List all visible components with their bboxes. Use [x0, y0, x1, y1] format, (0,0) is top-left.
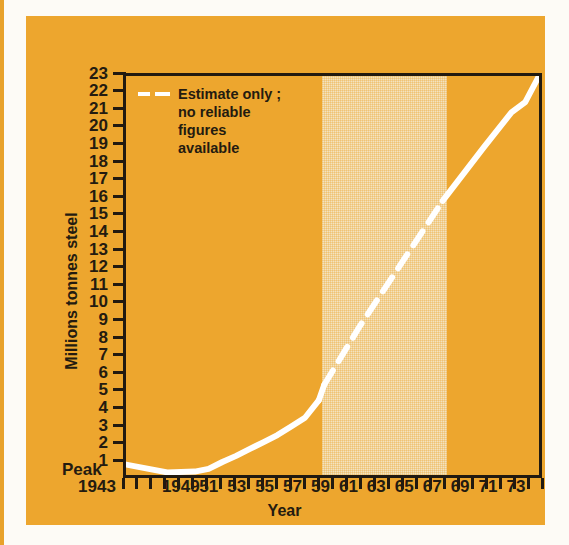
y-axis-title: Millions tonnes steel	[63, 201, 81, 381]
x-label-1943: 1943	[78, 477, 116, 497]
y-label-18: 18	[89, 153, 108, 170]
x-axis-labels: 19431949515355575961636567697173	[0, 477, 569, 503]
x-axis-title: Year	[0, 502, 569, 520]
y-label-2: 2	[99, 434, 108, 451]
y-label-6: 6	[99, 364, 108, 381]
series-segment-0-2	[324, 201, 442, 385]
series-segment-0-0	[126, 400, 319, 472]
chart-legend: Estimate only ; no reliable figures avai…	[138, 85, 281, 157]
legend-label: Estimate only ; no reliable figures avai…	[178, 85, 281, 157]
y-label-8: 8	[99, 329, 108, 346]
y-label-12: 12	[89, 258, 108, 275]
x-label-57: 57	[283, 477, 302, 497]
x-label-55: 55	[255, 477, 274, 497]
x-label-63: 63	[367, 477, 386, 497]
x-label-53: 53	[227, 477, 246, 497]
y-label-4: 4	[99, 399, 108, 416]
x-label-61: 61	[339, 477, 358, 497]
y-label-23: 23	[89, 65, 108, 82]
x-label-51: 51	[199, 477, 218, 497]
y-label-14: 14	[89, 223, 108, 240]
chart-orange-panel: 2322212019181716151413121110987654321 Pe…	[26, 16, 545, 525]
series-segment-0-3	[443, 76, 539, 201]
x-label-69: 69	[451, 477, 470, 497]
y-label-15: 15	[89, 205, 108, 222]
y-label-21: 21	[89, 100, 108, 117]
y-label-11: 11	[90, 276, 108, 293]
y-label-7: 7	[99, 346, 108, 363]
y-label-9: 9	[99, 311, 108, 328]
y-label-19: 19	[89, 135, 108, 152]
y-label-3: 3	[99, 417, 108, 434]
y-label-10: 10	[89, 293, 108, 310]
dashed-line-swatch-icon	[138, 85, 172, 102]
x-label-67: 67	[423, 477, 442, 497]
x-label-71: 71	[479, 477, 498, 497]
x-label-65: 65	[395, 477, 414, 497]
y-label-5: 5	[99, 381, 108, 398]
y-label-17: 17	[89, 170, 108, 187]
y-label-20: 20	[89, 117, 108, 134]
page-left-edge-stripe	[0, 0, 4, 545]
y-label-13: 13	[89, 241, 108, 258]
y-label-22: 22	[89, 82, 108, 99]
x-label-59: 59	[311, 477, 330, 497]
chart-page: 2322212019181716151413121110987654321 Pe…	[0, 0, 569, 545]
x-label-73: 73	[507, 477, 526, 497]
x-label-1949: 1949	[162, 477, 200, 497]
y-label-16: 16	[89, 188, 108, 205]
